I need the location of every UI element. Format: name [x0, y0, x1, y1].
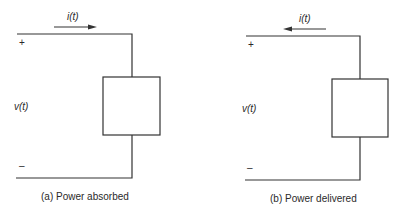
panel-a-plus-sign: + [19, 37, 25, 48]
panel-a-bottom-wire [16, 135, 132, 178]
panel-a-circuit [16, 27, 160, 178]
panel-b-bottom-wire [245, 137, 360, 180]
panel-a-element-box [103, 77, 160, 135]
panel-a-top-wire [17, 34, 132, 77]
panel-a-minus-sign: – [19, 160, 25, 171]
panel-b-current-label: i(t) [299, 13, 311, 24]
panel-a-caption: (a) Power absorbed [41, 191, 129, 202]
panel-a-voltage-label: v(t) [14, 101, 28, 112]
panel-b-current-arrow-head-icon [283, 27, 292, 32]
panel-b-top-wire [246, 36, 360, 79]
panel-b-caption: (b) Power delivered [270, 193, 357, 204]
panel-b-element-box [332, 79, 388, 137]
panel-a-current-arrow-head-icon [88, 25, 97, 30]
panel-a-current-label: i(t) [67, 11, 79, 22]
circuit-diagrams [0, 0, 401, 216]
panel-b-minus-sign: – [247, 162, 253, 173]
panel-b-plus-sign: + [248, 39, 254, 50]
panel-b-voltage-label: v(t) [242, 103, 256, 114]
panel-b-circuit [245, 29, 388, 180]
